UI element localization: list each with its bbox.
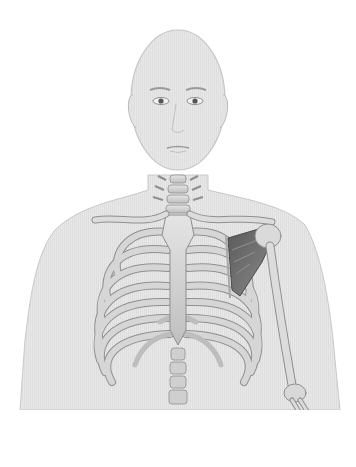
- eye-right: [187, 98, 203, 105]
- anatomy-illustration: Anatomical illustration: human upper bod…: [0, 0, 356, 467]
- bottom-fade: [0, 410, 356, 467]
- head: [128, 30, 227, 170]
- lower-spine: [169, 348, 187, 404]
- eye-left: [153, 98, 169, 105]
